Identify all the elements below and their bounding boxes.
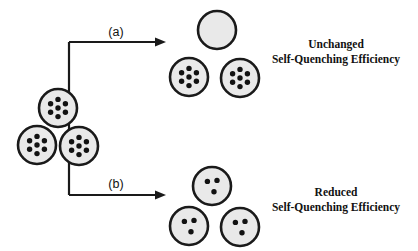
source-vesicle-right — [60, 127, 98, 165]
fluorophore-dot — [34, 134, 39, 139]
fluorophore-dot — [230, 71, 235, 76]
fluorophore-dot — [179, 70, 184, 75]
fluorophore-dot — [69, 139, 74, 144]
vesicle-membrane — [198, 11, 236, 49]
fluorophore-dot — [237, 75, 242, 80]
fluorophore-dot — [27, 138, 32, 143]
fluorophore-dot — [237, 84, 242, 89]
fluorophore-dot — [34, 142, 39, 147]
fluorophore-dot — [239, 230, 244, 235]
fluorophore-dot — [186, 83, 191, 88]
vesicle-b-left — [170, 207, 208, 245]
branch-a-caption-line2: Self-Quenching Efficiency — [272, 53, 400, 66]
branch-a-vesicle-cluster — [170, 11, 259, 97]
fluorophore-dot — [48, 110, 53, 115]
vesicle-a-right — [221, 59, 259, 97]
fluorophore-dot — [76, 135, 81, 140]
fluorophore-dot — [55, 114, 60, 119]
fluorophore-dot — [194, 79, 199, 84]
fluorophore-dot — [188, 229, 193, 234]
fluorophore-dot — [69, 148, 74, 153]
fluorophore-dot — [230, 80, 235, 85]
fluorophore-dot — [42, 147, 47, 152]
fluorophore-dot — [186, 66, 191, 71]
self-quenching-efficiency-diagram: (a) (b) Unchanged Self-Quenching Efficie… — [0, 0, 418, 251]
arrow-b-head — [155, 190, 166, 199]
fluorophore-dot — [237, 67, 242, 72]
vesicle-a-top-empty — [198, 11, 236, 49]
vesicle-b-right — [221, 208, 259, 246]
fluorophore-dot — [211, 189, 216, 194]
fluorophore-dot — [205, 179, 210, 184]
vesicle-a-left — [170, 58, 208, 96]
fluorophore-dot — [42, 138, 47, 143]
vesicle-membrane — [170, 207, 208, 245]
source-vesicle-left — [18, 126, 56, 164]
fluorophore-dot — [27, 147, 32, 152]
vesicle-membrane — [221, 208, 259, 246]
branch-b-caption-line1: Reduced — [315, 186, 358, 198]
fluorophore-dot — [245, 80, 250, 85]
branch-b-caption-line2: Self-Quenching Efficiency — [272, 201, 400, 214]
fluorophore-dot — [63, 110, 68, 115]
fluorophore-dot — [34, 151, 39, 156]
fluorophore-dot — [76, 152, 81, 157]
fluorophore-dot — [48, 101, 53, 106]
fluorophore-dot — [214, 178, 219, 183]
fluorophore-dot — [186, 74, 191, 79]
fluorophore-dot — [233, 220, 238, 225]
diagram-canvas: (a) (b) Unchanged Self-Quenching Efficie… — [0, 0, 418, 251]
fluorophore-dot — [55, 97, 60, 102]
vesicle-membrane — [193, 167, 231, 205]
fluorophore-dot — [76, 143, 81, 148]
fluorophore-dot — [55, 105, 60, 110]
vesicle-b-top — [193, 167, 231, 205]
fluorophore-dot — [242, 219, 247, 224]
fluorophore-dot — [194, 70, 199, 75]
fluorophore-dot — [84, 148, 89, 153]
branch-b-vesicle-cluster — [170, 167, 259, 246]
branch-a-caption-line1: Unchanged — [308, 38, 364, 51]
source-vesicle-cluster — [18, 89, 98, 165]
fluorophore-dot — [182, 219, 187, 224]
fluorophore-dot — [191, 218, 196, 223]
connector-and-arrows — [69, 37, 166, 199]
branch-a-label: (a) — [108, 25, 123, 39]
fluorophore-dot — [179, 79, 184, 84]
fluorophore-dot — [245, 71, 250, 76]
branch-b-label: (b) — [108, 177, 123, 191]
fluorophore-dot — [84, 139, 89, 144]
source-vesicle-top — [39, 89, 77, 127]
fluorophore-dot — [63, 101, 68, 106]
arrow-a-head — [155, 37, 166, 46]
